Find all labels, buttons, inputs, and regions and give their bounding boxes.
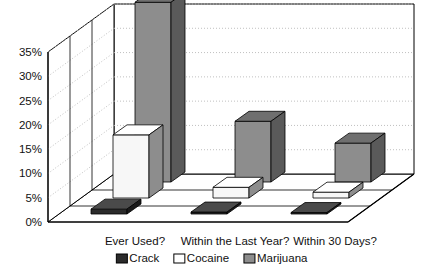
x-axis-category-label: Ever Used? <box>105 235 165 247</box>
y-axis-tick-label: 30% <box>19 70 42 82</box>
y-axis-tick-label: 10% <box>19 167 42 179</box>
bar-side-face <box>149 125 163 198</box>
bar-front-face <box>113 135 149 198</box>
legend-swatch-cocaine <box>174 254 185 263</box>
bar-front-face <box>313 192 349 198</box>
bar-front-face <box>235 121 271 182</box>
x-axis-category-label: Within 30 Days? <box>293 235 377 247</box>
legend-swatch-crack <box>116 254 127 263</box>
y-axis-tick-label: 20% <box>19 119 42 131</box>
x-axis-category-label: Within the Last Year? <box>181 235 290 247</box>
bar-side-face <box>171 0 185 182</box>
bar-side-face <box>271 111 285 182</box>
y-axis-tick-label: 15% <box>19 143 42 155</box>
y-axis-tick-label: 5% <box>25 192 42 204</box>
legend-label-marijuana: Marijuana <box>257 252 308 264</box>
y-axis-tick-label: 25% <box>19 95 42 107</box>
legend-swatch-marijuana <box>244 254 255 263</box>
bar-front-face <box>213 187 249 198</box>
bar-front-face <box>91 209 127 214</box>
y-axis-tick-label: 35% <box>19 46 42 58</box>
bar-front-face <box>335 143 371 182</box>
legend-label-cocaine: Cocaine <box>187 252 229 264</box>
bar-chart-3d: 0%5%10%15%20%25%30%35%Ever Used?Within t… <box>0 0 431 275</box>
chart-container: 0%5%10%15%20%25%30%35%Ever Used?Within t… <box>0 0 431 275</box>
legend-label-crack: Crack <box>129 252 159 264</box>
y-axis-tick-label: 0% <box>25 216 42 228</box>
